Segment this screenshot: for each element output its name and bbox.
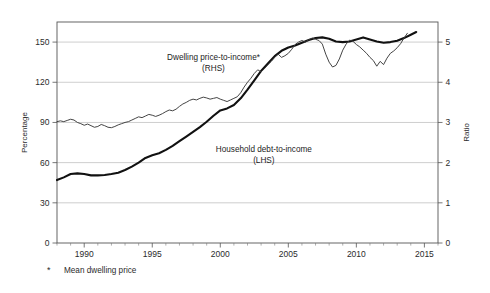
- y-tick-label-right: 0: [446, 238, 451, 248]
- y-tick-label-left: 90: [40, 117, 50, 127]
- y-tick-label-left: 30: [40, 198, 50, 208]
- y-tick-label-right: 3: [446, 117, 451, 127]
- series-annotation-axis-dwelling: (RHS): [202, 64, 225, 73]
- y-tick-label-left: 150: [35, 37, 49, 47]
- series-annotation-name-dwelling: Dwelling price-to-income*: [167, 53, 261, 62]
- footnote-marker: *: [47, 265, 51, 275]
- y-tick-label-left: 0: [45, 238, 50, 248]
- x-tick-label: 2015: [415, 249, 434, 259]
- x-tick-label: 2000: [211, 249, 230, 259]
- y-tick-label-left: 120: [35, 77, 49, 87]
- y-tick-label-left: 60: [40, 158, 50, 168]
- x-tick-label: 2010: [347, 249, 366, 259]
- chart-svg: 199019952000200520102015 0306090120150 0…: [0, 0, 490, 293]
- chart-figure: 199019952000200520102015 0306090120150 0…: [0, 0, 490, 293]
- x-tick-label: 1990: [75, 249, 94, 259]
- series-annotation-axis-household: (LHS): [253, 156, 275, 165]
- y-tick-label-right: 5: [446, 37, 451, 47]
- y-tick-label-right: 1: [446, 198, 451, 208]
- y-tick-label-right: 2: [446, 158, 451, 168]
- footnote-text: Mean dwelling price: [64, 266, 137, 275]
- y-tick-label-right: 4: [446, 77, 451, 87]
- x-tick-label: 1995: [143, 249, 162, 259]
- y-axis-right-title: Ratio: [462, 123, 471, 142]
- x-tick-label: 2005: [279, 249, 298, 259]
- series-annotation-name-household: Household debt-to-income: [216, 145, 312, 154]
- y-axis-left-title: Percentage: [20, 111, 29, 152]
